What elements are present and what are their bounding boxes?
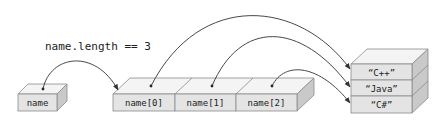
string-object-1: “Java” bbox=[351, 80, 412, 96]
array-cell-label: name[2] bbox=[248, 98, 286, 108]
string-value: “Java” bbox=[365, 84, 398, 94]
variable-label: name bbox=[27, 98, 49, 108]
string-value: “C#” bbox=[371, 100, 393, 110]
string-stack: “C++” “Java” “C#” bbox=[351, 49, 428, 113]
array-cell-label: name[1] bbox=[187, 98, 225, 108]
array-box-top bbox=[113, 78, 314, 94]
string-value: “C++” bbox=[368, 68, 395, 78]
diagram-canvas: name.length == 3 name name[0] name[1] bbox=[0, 0, 443, 123]
array-reference-diagram: name.length == 3 name name[0] name[1] bbox=[0, 0, 443, 123]
variable-box-name: name bbox=[18, 84, 67, 111]
string-object-0: “C++” bbox=[351, 64, 412, 80]
arrow-cell0-to-cpp bbox=[151, 16, 350, 86]
string-object-2: “C#” bbox=[351, 96, 412, 113]
array-cell-label: name[0] bbox=[125, 98, 163, 108]
length-caption: name.length == 3 bbox=[45, 40, 151, 53]
